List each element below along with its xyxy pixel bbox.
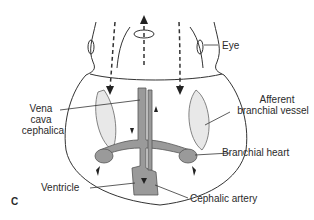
cephalopod-circulation-diagram: Eye Afferent branchial vessel Vena cava … xyxy=(0,0,314,220)
eye-icon xyxy=(88,40,203,54)
water-flow-arrows xyxy=(110,22,180,88)
branchial-heart-label: Branchial heart xyxy=(222,147,289,158)
ventricle-label: Ventricle xyxy=(41,182,79,193)
afferent-label-line1: Afferent xyxy=(240,94,314,105)
vena-label-line1: Vena xyxy=(20,103,62,114)
cephalic-artery-label: Cephalic artery xyxy=(190,193,257,204)
vena-label-line3: cephalica xyxy=(16,125,70,136)
eye-label: Eye xyxy=(222,40,239,51)
arrowhead-icons xyxy=(106,15,184,95)
afferent-label-line2: branchial vessel xyxy=(232,105,314,116)
vena-label-line2: cava xyxy=(20,114,62,125)
panel-label: C xyxy=(11,196,18,207)
